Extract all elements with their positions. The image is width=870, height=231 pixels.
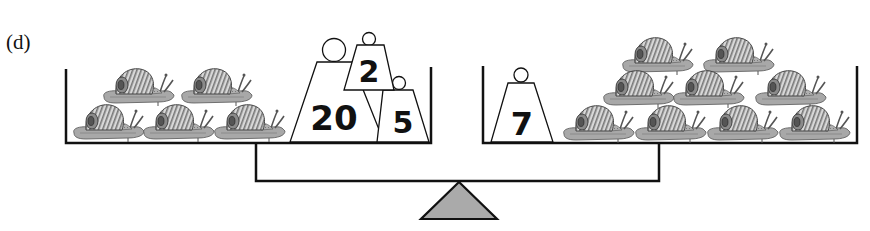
balance-scale-diagram: 20 5 2 7 xyxy=(0,0,870,231)
snail-icon xyxy=(708,106,778,143)
snail-icon xyxy=(623,38,693,75)
left-snails xyxy=(74,69,285,142)
snail-icon xyxy=(215,105,285,142)
weight-2: 2 xyxy=(344,33,394,91)
snail-icon xyxy=(564,106,634,143)
snail-icon xyxy=(756,71,826,108)
right-snails xyxy=(564,38,850,143)
fulcrum-triangle xyxy=(421,182,497,219)
snail-icon xyxy=(604,71,674,108)
right-pan: 7 xyxy=(483,38,857,143)
weight-label: 7 xyxy=(511,105,533,143)
snail-icon xyxy=(780,106,850,143)
snail-icon xyxy=(182,69,252,106)
weight-label: 20 xyxy=(310,98,357,138)
snail-icon xyxy=(144,105,214,142)
weight-7: 7 xyxy=(491,68,553,143)
snail-icon xyxy=(704,38,774,75)
snail-icon xyxy=(74,105,144,142)
snail-icon xyxy=(636,106,706,143)
snail-icon xyxy=(104,69,174,106)
left-pan: 20 5 2 xyxy=(66,33,431,144)
weight-label: 2 xyxy=(359,54,380,89)
balance-beam xyxy=(256,143,659,181)
snail-icon xyxy=(674,71,744,108)
weight-label: 5 xyxy=(393,105,414,140)
